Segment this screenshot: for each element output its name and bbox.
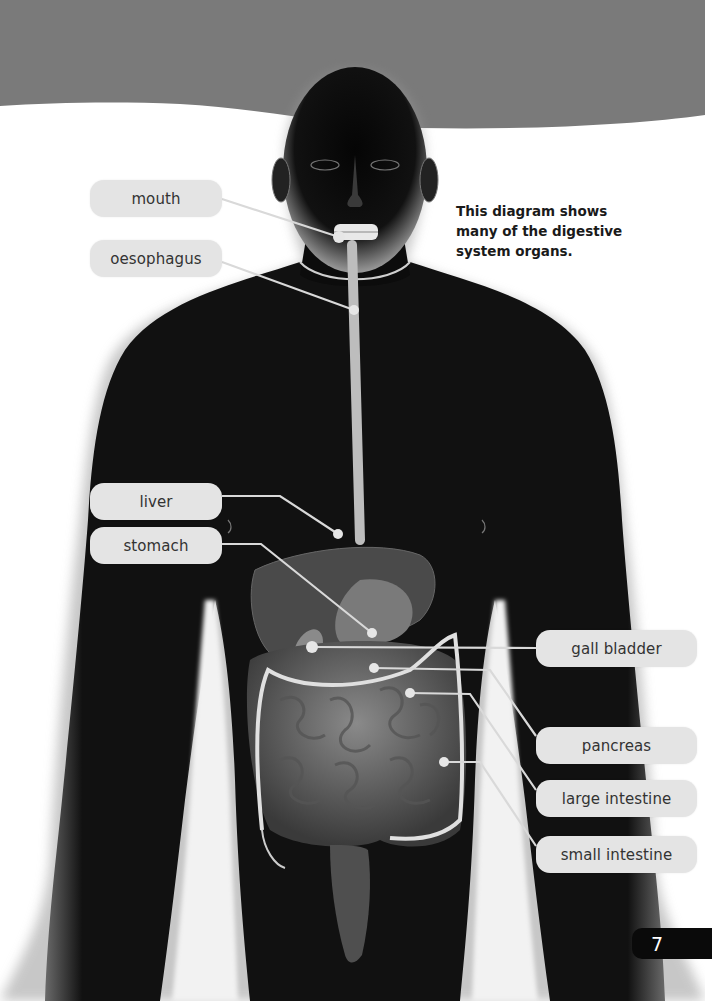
label-gall-bladder: gall bladder bbox=[536, 630, 697, 667]
label-stomach: stomach bbox=[90, 527, 222, 564]
label-pancreas-text: pancreas bbox=[582, 737, 651, 755]
label-stomach-text: stomach bbox=[123, 537, 188, 555]
page-number-tab: 7 bbox=[632, 928, 712, 959]
label-pancreas: pancreas bbox=[536, 727, 697, 764]
label-mouth: mouth bbox=[90, 180, 222, 217]
label-oesophagus-text: oesophagus bbox=[110, 250, 201, 268]
label-large-intestine-text: large intestine bbox=[562, 790, 672, 808]
caption-line-3: system organs. bbox=[456, 241, 686, 261]
label-oesophagus: oesophagus bbox=[90, 240, 222, 277]
label-liver: liver bbox=[90, 483, 222, 520]
label-liver-text: liver bbox=[139, 493, 172, 511]
caption-line-1: This diagram shows bbox=[456, 201, 686, 221]
diagram-caption: This diagram shows many of the digestive… bbox=[456, 201, 686, 261]
caption-line-2: many of the digestive bbox=[456, 221, 686, 241]
label-small-intestine: small intestine bbox=[536, 836, 697, 873]
label-mouth-text: mouth bbox=[131, 190, 180, 208]
page-number: 7 bbox=[651, 933, 663, 955]
label-small-intestine-text: small intestine bbox=[561, 846, 673, 864]
label-gall-bladder-text: gall bladder bbox=[571, 640, 661, 658]
label-large-intestine: large intestine bbox=[536, 780, 697, 817]
